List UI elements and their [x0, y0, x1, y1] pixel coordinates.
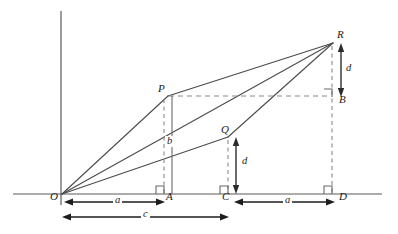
segment-P-R: [168, 43, 333, 96]
dimension-label-a-right: a: [283, 195, 292, 206]
dimension-label-d-upper: d: [344, 63, 353, 74]
arrowhead-a-right-start: [234, 199, 243, 206]
segment-O-P: [62, 96, 168, 194]
point-label-B: B: [339, 94, 346, 105]
point-label-D: D: [339, 191, 347, 202]
segment-O-Q: [62, 137, 228, 194]
point-label-P: P: [158, 83, 165, 94]
arrowhead-c-start: [62, 213, 71, 220]
point-label-O: O: [50, 191, 58, 202]
arrowhead-c-end: [220, 213, 229, 220]
dimension-label-b: b: [165, 136, 174, 147]
dimension-label-a-left: a: [113, 195, 122, 206]
arrowhead-d-lower-bottom: [233, 185, 239, 194]
point-label-R: R: [337, 29, 344, 40]
arrowhead-d-upper-top: [338, 43, 344, 52]
segment-Q-R: [228, 43, 333, 137]
arrowhead-a-right-end: [326, 199, 335, 206]
right-angle-mark-D: [324, 186, 332, 194]
arrowhead-a-left-start: [64, 199, 73, 206]
right-angle-mark-A: [156, 186, 164, 194]
dimension-label-c: c: [141, 209, 150, 220]
point-label-Q: Q: [221, 124, 229, 135]
dimension-label-d-lower: d: [240, 156, 249, 167]
point-label-A: A: [166, 191, 173, 202]
arrowhead-a-left-end: [156, 199, 165, 206]
geometry-figure: O A C D P Q R B a a c b d d: [0, 0, 398, 234]
segment-O-R: [62, 43, 333, 194]
arrowhead-d-lower-top: [233, 137, 239, 146]
point-label-C: C: [222, 191, 229, 202]
